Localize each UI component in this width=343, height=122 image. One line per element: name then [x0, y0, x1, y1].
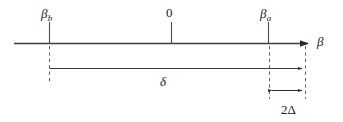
label-zero: 0 [166, 6, 173, 19]
label-beta-b-subscript: b [48, 13, 53, 23]
label-beta-a-subscript: a [267, 13, 272, 23]
label-beta-b-symbol: β [41, 6, 47, 21]
label-beta-a: βa [260, 7, 271, 23]
label-delta: δ [160, 75, 166, 88]
figure-number-line-diagram: βb 0 βa β δ 2Δ [0, 0, 343, 122]
label-beta-b: βb [41, 7, 52, 23]
label-beta-a-symbol: β [260, 6, 266, 21]
label-beta-axis: β [317, 35, 323, 48]
label-two-delta: 2Δ [281, 103, 296, 116]
